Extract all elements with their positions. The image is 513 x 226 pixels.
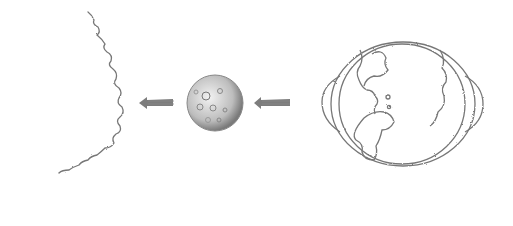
sketch-canvas	[0, 0, 513, 226]
arrow-left-icon	[139, 97, 174, 109]
arrow-left-icon	[254, 97, 290, 109]
sun-icon	[59, 12, 123, 173]
moon-icon	[187, 75, 243, 131]
earth-icon	[322, 42, 483, 166]
